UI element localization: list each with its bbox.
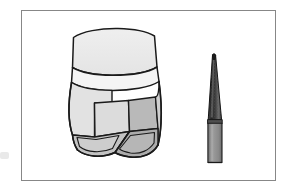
axial-box-mesial-face <box>95 101 130 138</box>
tapered-diamond-bur-group <box>208 54 223 163</box>
bur-working-tip <box>212 54 215 60</box>
dental-figure-root <box>0 0 290 192</box>
distal-axial-wall <box>129 97 159 132</box>
figure-frame-border <box>21 10 276 181</box>
bur-shank <box>208 123 222 162</box>
dental-illustration-canvas <box>22 11 275 180</box>
crown-occlusal-table <box>73 28 158 75</box>
page-edge-smudge <box>0 152 9 159</box>
prepared-molar-tooth-group <box>69 28 161 157</box>
bur-shank-highlight <box>211 125 214 161</box>
